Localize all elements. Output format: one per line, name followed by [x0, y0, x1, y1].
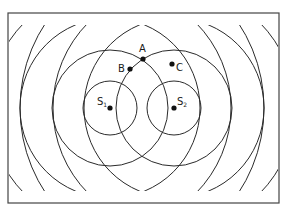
wavefront-s1-4: [0, 0, 231, 214]
wavefront-s2-4: [53, 0, 287, 214]
point-dot-b: [127, 66, 132, 71]
interference-diagram: S1S2 ABC: [0, 0, 287, 214]
source-dot-s1: [107, 105, 112, 110]
point-label-a: A: [139, 43, 146, 54]
wavefront-s2-5: [20, 0, 287, 214]
point-label-c: C: [176, 62, 183, 73]
source-label-s1: S1: [97, 96, 107, 108]
point-dot-a: [140, 56, 145, 61]
source-label-s2: S2: [177, 96, 187, 108]
points: ABC: [118, 43, 183, 74]
sources: S1S2: [97, 96, 187, 111]
point-dot-c: [169, 61, 174, 66]
point-label-b: B: [118, 63, 125, 74]
source-dot-s2: [171, 105, 176, 110]
wavefronts: [0, 0, 287, 214]
